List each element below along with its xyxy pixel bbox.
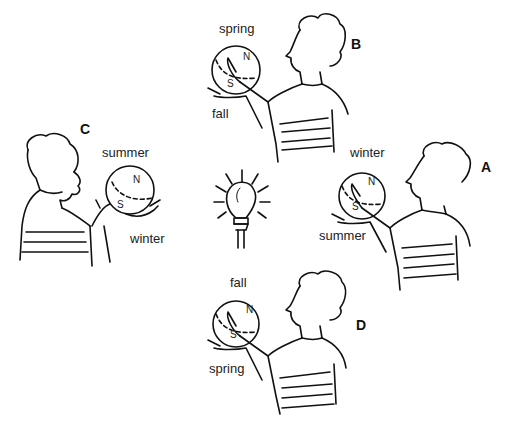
person-a-figure	[332, 143, 470, 290]
south-pole-a: S	[352, 202, 359, 212]
north-pole-a: N	[368, 177, 375, 187]
north-pole-d: N	[246, 305, 253, 315]
earth-seasons-diagram: spring fall B N S C summer winter N S wi…	[0, 0, 511, 440]
south-pole-c: S	[117, 200, 124, 210]
label-a-top: winter	[350, 146, 385, 159]
position-letter-c: C	[80, 122, 90, 136]
position-letter-a: A	[481, 160, 491, 174]
light-bulb-icon	[214, 170, 270, 248]
label-b-top: spring	[219, 22, 254, 35]
north-pole-c: N	[133, 175, 140, 185]
label-a-bottom: summer	[319, 229, 366, 242]
south-pole-d: S	[230, 330, 237, 340]
label-c-top: summer	[102, 146, 149, 159]
label-d-top: fall	[230, 276, 247, 289]
person-d-figure	[208, 271, 346, 414]
label-c-bottom: winter	[130, 232, 165, 245]
position-letter-d: D	[356, 318, 366, 332]
position-letter-b: B	[351, 37, 361, 51]
south-pole-b: S	[227, 79, 234, 89]
label-d-bottom: spring	[209, 362, 244, 375]
label-b-bottom: fall	[212, 107, 229, 120]
north-pole-b: N	[243, 52, 250, 62]
